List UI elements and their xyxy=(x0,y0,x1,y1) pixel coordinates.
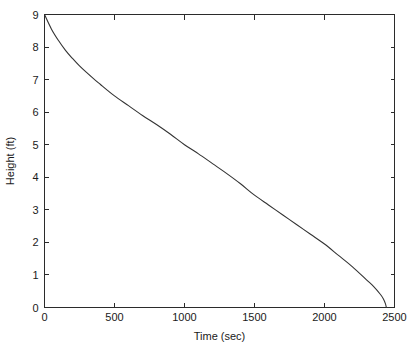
figure-canvas: 05001000150020002500 0123456789 Time (se… xyxy=(0,0,416,351)
y-tick-label-3: 3 xyxy=(32,204,38,216)
y-tick-label-1: 1 xyxy=(32,269,38,281)
x-tick-label-1500: 1500 xyxy=(242,311,266,323)
y-tick-label-0: 0 xyxy=(32,302,38,314)
x-tick-label-500: 500 xyxy=(105,311,123,323)
y-tick-label-2: 2 xyxy=(32,236,38,248)
y-axis-tick-labels: 0123456789 xyxy=(32,9,38,314)
x-axis-tick-labels: 05001000150020002500 xyxy=(41,311,406,323)
y-axis-title: Height (ft) xyxy=(4,137,16,185)
y-tick-label-7: 7 xyxy=(32,74,38,86)
y-tick-label-6: 6 xyxy=(32,106,38,118)
y-tick-label-9: 9 xyxy=(32,9,38,21)
x-tick-label-1000: 1000 xyxy=(172,311,196,323)
y-tick-label-8: 8 xyxy=(32,41,38,53)
x-tick-label-2500: 2500 xyxy=(382,311,406,323)
x-axis-title: Time (sec) xyxy=(194,330,246,342)
y-tick-label-5: 5 xyxy=(32,139,38,151)
x-tick-label-2000: 2000 xyxy=(312,311,336,323)
y-tick-label-4: 4 xyxy=(32,171,38,183)
plot-area-background xyxy=(44,14,395,308)
x-tick-label-0: 0 xyxy=(41,311,47,323)
line-chart: 05001000150020002500 0123456789 Time (se… xyxy=(0,0,416,351)
